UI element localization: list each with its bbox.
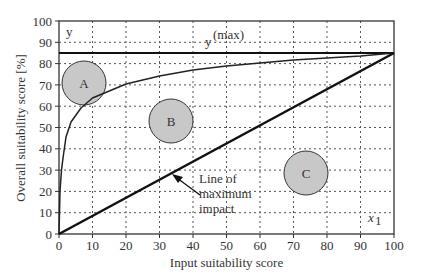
svg-text:y: y xyxy=(205,34,212,49)
y-axis-title: Overall suitability score [%] xyxy=(13,54,28,202)
svg-text:40: 40 xyxy=(39,141,52,156)
svg-text:Line of: Line of xyxy=(199,171,238,186)
svg-text:60: 60 xyxy=(39,99,52,114)
circle-a: A xyxy=(62,61,106,105)
svg-text:A: A xyxy=(79,76,89,91)
svg-text:70: 70 xyxy=(39,78,52,93)
svg-text:C: C xyxy=(302,166,311,181)
svg-text:20: 20 xyxy=(39,184,52,199)
arrow-label: Line of maximum impact xyxy=(199,171,252,216)
svg-text:0: 0 xyxy=(46,227,53,242)
circle-c: C xyxy=(284,151,328,195)
svg-text:80: 80 xyxy=(321,238,334,253)
svg-text:60: 60 xyxy=(254,238,267,253)
svg-text:40: 40 xyxy=(187,238,200,253)
svg-text:0: 0 xyxy=(56,238,63,253)
svg-text:50: 50 xyxy=(39,120,52,135)
svg-text:100: 100 xyxy=(384,238,404,253)
ymax-label: y (max) xyxy=(205,27,244,49)
svg-text:x: x xyxy=(367,210,374,225)
svg-text:maximum: maximum xyxy=(199,186,252,201)
svg-text:50: 50 xyxy=(220,238,233,253)
svg-text:30: 30 xyxy=(153,238,166,253)
svg-text:10: 10 xyxy=(86,238,99,253)
chart-canvas: 0 10 20 30 40 50 60 70 80 90 100 0 10 20… xyxy=(0,0,421,280)
y-tick-labels: 0 10 20 30 40 50 60 70 80 90 100 xyxy=(33,14,53,242)
svg-text:90: 90 xyxy=(354,238,367,253)
svg-text:20: 20 xyxy=(120,238,133,253)
x-axis-title: Input suitability score xyxy=(170,255,284,270)
svg-text:100: 100 xyxy=(33,14,53,29)
x-tick-labels: 0 10 20 30 40 50 60 70 80 90 100 xyxy=(56,238,404,253)
svg-text:10: 10 xyxy=(39,205,52,220)
svg-text:70: 70 xyxy=(287,238,300,253)
circle-b: B xyxy=(149,99,193,143)
svg-text:impact: impact xyxy=(199,201,235,216)
svg-text:1: 1 xyxy=(375,213,382,228)
svg-text:(max): (max) xyxy=(213,27,244,42)
svg-text:90: 90 xyxy=(39,35,52,50)
svg-text:30: 30 xyxy=(39,163,52,178)
svg-text:80: 80 xyxy=(39,56,52,71)
x1-label: x 1 xyxy=(367,210,382,228)
y-corner-label: y xyxy=(66,24,73,39)
svg-text:B: B xyxy=(167,114,176,129)
